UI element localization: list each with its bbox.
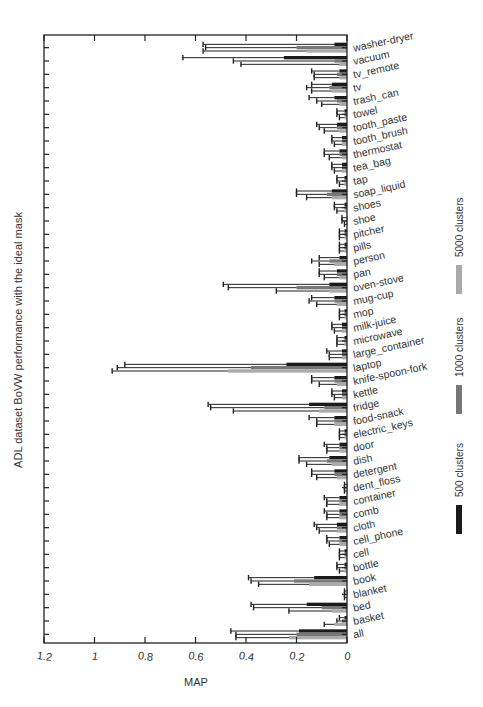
- chart-title: ADL dataset BoVW performance with the id…: [12, 212, 24, 468]
- bar: [329, 283, 347, 286]
- bar: [337, 383, 347, 386]
- category-label: all: [352, 626, 365, 640]
- bar: [339, 543, 347, 546]
- bar: [334, 623, 347, 626]
- bar: [307, 603, 347, 606]
- bar: [294, 579, 347, 582]
- bar: [342, 323, 347, 326]
- bar: [339, 516, 347, 519]
- bar: [329, 456, 347, 459]
- bar: [309, 403, 347, 406]
- category-label: tv: [352, 80, 363, 94]
- bar: [286, 363, 347, 366]
- bar: [314, 576, 347, 579]
- legend-swatch: [456, 505, 462, 534]
- bar: [339, 503, 347, 506]
- bar: [307, 49, 347, 52]
- legend-label: 5000 clusters: [454, 198, 465, 257]
- bar: [342, 143, 347, 146]
- bar: [332, 463, 347, 466]
- bar: [339, 509, 347, 512]
- bar: [334, 416, 347, 419]
- x-tick-label: 0.8: [137, 649, 154, 663]
- bar: [339, 149, 347, 152]
- bars-layer: [112, 42, 347, 641]
- bar: [342, 389, 347, 392]
- bar: [337, 123, 347, 126]
- bar: [289, 636, 347, 639]
- bar: [334, 263, 347, 266]
- bar: [342, 169, 347, 172]
- bar: [337, 303, 347, 306]
- bar: [299, 629, 347, 632]
- bar: [309, 583, 347, 586]
- bar: [284, 56, 347, 59]
- legend-swatch: [456, 385, 462, 414]
- bar: [251, 366, 347, 369]
- bar: [334, 376, 347, 379]
- bar: [339, 536, 347, 539]
- bar: [337, 476, 347, 479]
- bar: [337, 523, 347, 526]
- bar: [319, 409, 347, 412]
- bar: [334, 469, 347, 472]
- bar: [339, 76, 347, 79]
- bar: [334, 96, 347, 99]
- bar: [332, 83, 347, 86]
- bar-chart: 1.210.80.60.40.20 washer-dryervacuumtv_r…: [0, 0, 483, 707]
- bar: [297, 286, 348, 289]
- x-tick-label: 1: [91, 650, 99, 663]
- x-tick-label: 0: [344, 650, 352, 663]
- legend-label: 1000 clusters: [454, 318, 465, 377]
- category-labels: washer-dryervacuumtv_remotetvtrash_canto…: [351, 29, 429, 640]
- bar: [342, 356, 347, 359]
- bar: [339, 449, 347, 452]
- legend: 500 clusters1000 clusters5000 clusters: [454, 198, 465, 534]
- bar: [342, 396, 347, 399]
- bar: [339, 103, 347, 106]
- x-tick-label: 0.4: [238, 649, 255, 663]
- bar: [342, 329, 347, 332]
- legend-swatch: [456, 265, 462, 294]
- bar: [297, 633, 348, 636]
- x-axis-title: MAP: [184, 676, 208, 688]
- bar: [339, 496, 347, 499]
- bar: [334, 296, 347, 299]
- bar: [332, 89, 347, 92]
- bar: [342, 136, 347, 139]
- plot-frame: [44, 35, 347, 643]
- x-axis: 1.210.80.60.40.20: [36, 35, 351, 663]
- bar: [339, 276, 347, 279]
- bar: [228, 369, 347, 372]
- bar: [339, 69, 347, 72]
- x-tick-label: 0.6: [188, 649, 205, 663]
- legend-label: 500 clusters: [454, 443, 465, 497]
- bar: [339, 63, 347, 66]
- y-ticks: [44, 48, 347, 635]
- bar: [339, 256, 347, 259]
- bar: [342, 349, 347, 352]
- bar: [339, 443, 347, 446]
- bar: [297, 46, 348, 49]
- bar: [334, 43, 347, 46]
- bar: [337, 269, 347, 272]
- x-tick-label: 0.2: [289, 649, 306, 663]
- bar: [339, 129, 347, 132]
- bar: [332, 196, 347, 199]
- bar: [329, 289, 347, 292]
- x-tick-label: 1.2: [36, 649, 53, 663]
- bar: [332, 189, 347, 192]
- bar: [334, 423, 347, 426]
- bar: [332, 609, 347, 612]
- bar: [342, 156, 347, 159]
- bar: [337, 529, 347, 532]
- bar: [342, 163, 347, 166]
